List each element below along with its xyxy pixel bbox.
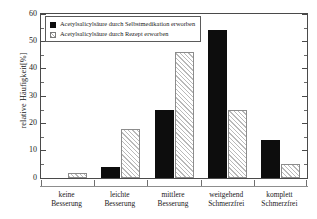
legend-item-rezept: Acetylsalicylsäure durch Rezept erworben xyxy=(50,30,195,38)
y-minor-tick-right xyxy=(304,137,307,138)
legend-swatch-solid-icon xyxy=(50,22,56,28)
bar-rezept-0 xyxy=(68,173,87,178)
bar-chart: relative Häufigkeit[%] 0102030405060 Ace… xyxy=(0,0,317,219)
y-tick-label: 50 xyxy=(29,36,37,46)
y-tick-mark xyxy=(41,68,46,69)
x-axis-ticks xyxy=(40,180,308,189)
y-tick-mark xyxy=(41,96,46,97)
bar-rezept-2 xyxy=(175,52,194,178)
legend-label-line-1: Acetylsalicylsäure durch xyxy=(60,30,123,37)
legend-label-line-2: Selbstmedikation erworben xyxy=(125,20,195,27)
x-axis-label-0: keineBesserung xyxy=(40,190,93,208)
y-axis-title: relative Häufigkeit[%] xyxy=(19,16,28,166)
y-tick-label: 40 xyxy=(29,63,37,73)
legend-swatch-hatched-icon xyxy=(50,32,56,38)
x-axis-label-line-2: Besserung xyxy=(40,199,93,208)
x-axis-label-line-1: komplett xyxy=(253,190,306,199)
y-tick-mark-right xyxy=(302,41,307,42)
y-tick-mark xyxy=(41,123,46,124)
y-minor-tick xyxy=(41,137,44,138)
y-tick-mark-right xyxy=(302,68,307,69)
x-axis-label-line-2: Schmerzfrei xyxy=(200,199,253,208)
legend: Acetylsalicylsäure durch Selbstmedikatio… xyxy=(45,16,201,42)
legend-label-rezept: Acetylsalicylsäure durch Rezept erworben xyxy=(60,30,168,37)
x-axis-label-line-2: Schmerzfrei xyxy=(253,199,306,208)
x-axis-label-3: weitgehendSchmerzfrei xyxy=(200,190,253,208)
legend-label-selbstmedikation: Acetylsalicylsäure durch Selbstmedikatio… xyxy=(60,20,195,27)
legend-label-line-1: Acetylsalicylsäure durch xyxy=(60,20,123,27)
y-tick-mark-right xyxy=(302,123,307,124)
y-tick-label: 10 xyxy=(29,145,37,155)
y-tick-mark-right xyxy=(302,150,307,151)
x-axis-label-line-1: keine xyxy=(40,190,93,199)
legend-label-line-2: Rezept erworben xyxy=(125,30,168,37)
y-tick-mark xyxy=(41,14,46,15)
x-axis-label-4: komplettSchmerzfrei xyxy=(253,190,306,208)
bar-selbstmedikation-2 xyxy=(155,110,174,178)
x-axis-label-1: leichteBesserung xyxy=(93,190,146,208)
y-tick-label: 0 xyxy=(33,173,37,183)
x-axis-label-2: mittlereBesserung xyxy=(146,190,199,208)
x-axis-label-line-1: mittlere xyxy=(146,190,199,199)
bar-selbstmedikation-1 xyxy=(101,167,120,178)
x-axis-baseline xyxy=(40,186,308,187)
y-minor-tick-right xyxy=(304,55,307,56)
y-minor-tick xyxy=(41,110,44,111)
x-axis-label-line-2: Besserung xyxy=(146,199,199,208)
x-axis-label-line-1: weitgehend xyxy=(200,190,253,199)
x-axis-label-line-1: leichte xyxy=(93,190,146,199)
legend-item-selbstmedikation: Acetylsalicylsäure durch Selbstmedikatio… xyxy=(50,20,195,28)
y-minor-tick xyxy=(41,28,44,29)
y-tick-mark-right xyxy=(302,178,307,179)
y-tick-mark xyxy=(41,178,46,179)
y-minor-tick-right xyxy=(304,82,307,83)
bar-rezept-3 xyxy=(228,110,247,178)
y-tick-mark-right xyxy=(302,96,307,97)
y-minor-tick xyxy=(41,164,44,165)
y-minor-tick-right xyxy=(304,110,307,111)
y-minor-tick xyxy=(41,55,44,56)
y-tick-mark-right xyxy=(302,14,307,15)
bar-rezept-4 xyxy=(281,164,300,178)
x-axis-labels: keineBesserungleichteBesserungmittlereBe… xyxy=(40,190,308,216)
bar-rezept-1 xyxy=(121,129,140,178)
y-minor-tick xyxy=(41,82,44,83)
bar-selbstmedikation-3 xyxy=(208,30,227,178)
y-minor-tick-right xyxy=(304,28,307,29)
bar-selbstmedikation-4 xyxy=(261,140,280,178)
x-axis-label-line-2: Besserung xyxy=(93,199,146,208)
y-tick-label: 60 xyxy=(29,9,37,19)
y-minor-tick-right xyxy=(304,164,307,165)
y-tick-label: 20 xyxy=(29,118,37,128)
y-tick-label: 30 xyxy=(29,91,37,101)
y-tick-mark xyxy=(41,150,46,151)
